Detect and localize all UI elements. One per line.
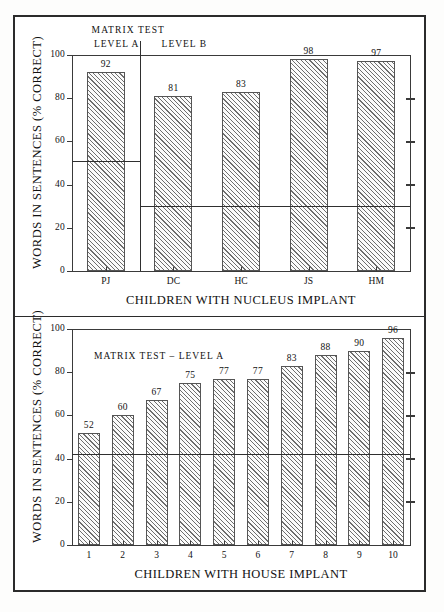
bar-value-label: 60 [103, 402, 143, 412]
top-ytick-label: 40 [32, 179, 65, 189]
top-ytick [67, 55, 73, 56]
top-xtick [106, 267, 107, 272]
top-ytick [67, 228, 73, 229]
figure-frame: MATRIX TEST LEVEL A LEVEL B WORDS IN SEN… [13, 15, 426, 592]
bottom-xtick [359, 541, 360, 546]
top-xtick [241, 267, 242, 272]
top-ytick [67, 185, 73, 186]
top-yaxis-title: WORDS IN SENTENCES (% CORRECT) [30, 36, 45, 269]
top-xtick-label: HM [352, 276, 400, 286]
reference-line [140, 206, 410, 207]
bar [382, 338, 404, 545]
bar [213, 379, 235, 545]
bar-value-label: 92 [82, 59, 130, 69]
bottom-left-axis [72, 329, 73, 546]
top-ytick-label: 20 [32, 222, 65, 232]
bottom-xtick-label: 10 [373, 550, 413, 560]
bottom-xtick [224, 541, 225, 546]
bar [315, 355, 337, 545]
bottom-ytick [67, 545, 73, 546]
bottom-ytick-right [406, 372, 415, 374]
bottom-ytick-right [406, 415, 415, 417]
bar-value-label: 90 [339, 338, 379, 348]
bar [348, 351, 370, 545]
bar-value-label: 52 [69, 420, 109, 430]
bar-value-label: 83 [272, 353, 312, 363]
top-xtick [309, 267, 310, 272]
bar [146, 400, 168, 545]
top-ytick-right [406, 98, 415, 100]
bar [222, 92, 260, 271]
bar-value-label: 83 [217, 79, 265, 89]
bar [78, 433, 100, 545]
bar-value-label: 81 [149, 83, 197, 93]
bottom-ytick-right [406, 458, 415, 460]
bar [112, 415, 134, 545]
bar-value-label: 98 [285, 46, 333, 56]
top-xaxis-title: CHILDREN WITH NUCLEUS IMPLANT [72, 293, 410, 308]
bottom-xtick [326, 541, 327, 546]
top-xtick-label: JS [285, 276, 333, 286]
figure-page: MATRIX TEST LEVEL A LEVEL B WORDS IN SEN… [0, 0, 444, 612]
bottom-xtick [292, 541, 293, 546]
level-group-divider [140, 41, 141, 271]
reference-line [72, 161, 140, 162]
top-xtick-label: PJ [82, 276, 130, 286]
bottom-ytick [67, 502, 73, 503]
top-xtick-label: HC [217, 276, 265, 286]
top-ytick-right [406, 227, 415, 229]
top-left-axis [72, 55, 73, 272]
bar [290, 59, 328, 271]
bottom-chart-panel: MATRIX TEST – LEVEL A WORDS IN SENTENCES… [15, 317, 424, 590]
bottom-xtick [157, 541, 158, 546]
bottom-top-axis [72, 329, 411, 330]
bottom-xtick [393, 541, 394, 546]
bar [357, 61, 395, 271]
bar-value-label: 67 [137, 387, 177, 397]
top-chart-panel: MATRIX TEST LEVEL A LEVEL B WORDS IN SEN… [15, 17, 424, 317]
bar [154, 96, 192, 271]
top-ytick [67, 141, 73, 142]
top-xtick [376, 267, 377, 272]
bar-value-label: 96 [373, 325, 413, 335]
reference-line [72, 454, 410, 455]
bottom-xtick [258, 541, 259, 546]
bar [247, 379, 269, 545]
bottom-ytick [67, 329, 73, 330]
bottom-ytick [67, 372, 73, 373]
bar [281, 366, 303, 545]
top-ytick-label: 80 [32, 92, 65, 102]
top-chart-title: MATRIX TEST [92, 25, 165, 35]
bottom-xaxis-title: CHILDREN WITH HOUSE IMPLANT [72, 567, 410, 582]
bottom-ytick [67, 415, 73, 416]
top-ytick-right [406, 141, 415, 143]
bar-value-label: 97 [352, 48, 400, 58]
bar [179, 383, 201, 545]
bottom-ytick-label: 100 [32, 323, 65, 333]
bottom-ytick-right [406, 501, 415, 503]
bottom-xtick [89, 541, 90, 546]
bottom-ytick-label: 20 [32, 496, 65, 506]
top-ytick [67, 271, 73, 272]
top-ytick [67, 98, 73, 99]
bar-value-label: 77 [238, 366, 278, 376]
bottom-xtick [123, 541, 124, 546]
top-xtick-label: DC [149, 276, 197, 286]
bottom-ytick-label: 0 [32, 539, 65, 549]
bottom-yaxis-title: WORDS IN SENTENCES (% CORRECT) [30, 310, 45, 543]
top-ytick-label: 60 [32, 135, 65, 145]
bottom-ytick [67, 459, 73, 460]
bottom-xtick [190, 541, 191, 546]
bottom-right-axis [410, 329, 411, 546]
top-xtick [173, 267, 174, 272]
bar [87, 72, 125, 271]
level-a-group-label: LEVEL A [94, 39, 139, 49]
bottom-ytick-label: 80 [32, 366, 65, 376]
level-b-group-label: LEVEL B [162, 39, 207, 49]
top-ytick-right [406, 184, 415, 186]
bottom-ytick-label: 60 [32, 409, 65, 419]
top-ytick-label: 0 [32, 265, 65, 275]
top-right-axis [410, 55, 411, 272]
bottom-ytick-label: 40 [32, 453, 65, 463]
top-ytick-label: 100 [32, 49, 65, 59]
